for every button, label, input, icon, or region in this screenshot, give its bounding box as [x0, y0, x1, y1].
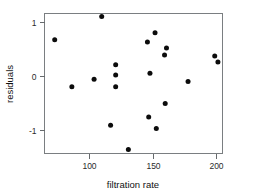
scatter-point — [69, 84, 74, 89]
scatter-point — [99, 14, 104, 19]
x-tick-label: 200 — [209, 161, 223, 171]
scatter-point — [108, 123, 113, 128]
scatter-point — [164, 45, 169, 50]
y-tick-label: 0 — [32, 72, 37, 82]
scatter-point — [113, 62, 118, 67]
scatter-point — [147, 71, 152, 76]
plot-panel-border — [45, 14, 223, 154]
y-axis-title: residuals — [4, 65, 15, 103]
x-axis-tick-labels: 100150200 — [82, 161, 223, 171]
y-tick-label: 1 — [32, 18, 37, 28]
scatter-point — [163, 101, 168, 106]
x-tick-label: 100 — [82, 161, 96, 171]
scatter-point — [52, 37, 57, 42]
plot-canvas: 10-1 100150200 filtration rate residuals — [0, 0, 253, 195]
y-tick-label: -1 — [29, 126, 37, 136]
scatter-points — [52, 14, 220, 152]
scatter-point — [113, 84, 118, 89]
scatter-point — [145, 39, 150, 44]
scatter-point — [146, 115, 151, 120]
scatter-point — [92, 77, 97, 82]
scatter-point — [162, 52, 167, 57]
scatter-point — [215, 59, 220, 64]
x-axis-title: filtration rate — [107, 179, 159, 190]
scatter-point — [186, 79, 191, 84]
scatter-point — [212, 54, 217, 59]
scatter-plot-figure: 10-1 100150200 filtration rate residuals — [0, 0, 253, 195]
scatter-point — [154, 126, 159, 131]
scatter-point — [113, 72, 118, 77]
scatter-point — [126, 147, 131, 152]
y-axis-ticks — [40, 23, 45, 131]
x-tick-label: 150 — [146, 161, 160, 171]
y-axis-tick-labels: 10-1 — [29, 18, 37, 136]
x-axis-ticks — [90, 154, 217, 159]
scatter-point — [153, 30, 158, 35]
